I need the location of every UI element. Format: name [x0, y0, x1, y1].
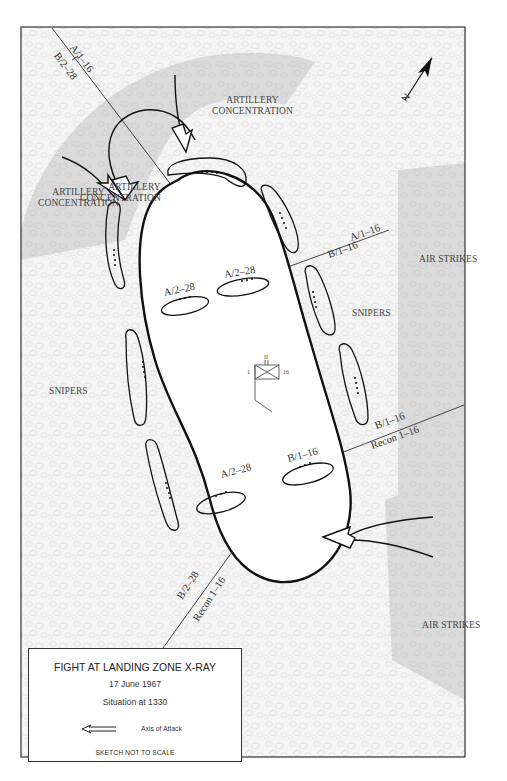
label-line: ARTILLERY [38, 187, 119, 198]
label-line: ARTILLERY [212, 95, 293, 106]
artillery-west-text: ARTILLERY CONCENTRATION [38, 187, 119, 209]
label-line: CONCENTRATION [38, 198, 119, 209]
scale-note: SKETCH NOT TO SCALE [29, 749, 241, 756]
legend-box: FIGHT AT LANDING ZONE X-RAY 17 June 1967… [28, 648, 242, 762]
map-situation: Situation at 1330 [29, 697, 241, 707]
snipers-west-label: SNIPERS [49, 386, 88, 396]
map-date: 17 June 1967 [29, 679, 241, 689]
air-strikes-east-label: AIR STRIKES [419, 254, 477, 264]
artillery-north-label: ARTILLERY CONCENTRATION [212, 95, 293, 117]
map-title: FIGHT AT LANDING ZONE X-RAY [29, 661, 241, 673]
command-post-left: 1 [247, 369, 250, 375]
axis-of-attack-label: Axis of Attack [141, 725, 182, 732]
command-post-right: 16 [283, 369, 289, 375]
label-line: CONCENTRATION [212, 106, 293, 117]
command-post-top: II [264, 354, 268, 360]
snipers-east-label: SNIPERS [352, 308, 391, 318]
air-strikes-southeast-label: AIR STRIKES [422, 620, 480, 630]
axis-of-attack-icon [81, 724, 117, 734]
